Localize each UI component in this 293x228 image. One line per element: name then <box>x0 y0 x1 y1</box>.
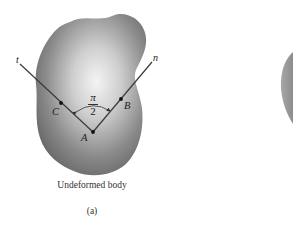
point-a-dot <box>91 130 95 134</box>
angle-numerator: π <box>87 92 99 103</box>
deformed-body-partial-shape <box>281 52 293 124</box>
point-c-dot <box>59 101 63 105</box>
point-c-label: C <box>52 107 59 118</box>
figure-caption: Undeformed body <box>57 180 126 190</box>
figure-sublabel: (a) <box>87 206 98 216</box>
n-axis-label: n <box>153 53 158 63</box>
point-a-label: A <box>81 133 87 144</box>
point-b-dot <box>119 97 123 101</box>
point-b-label: B <box>124 101 130 112</box>
angle-denominator: 2 <box>87 106 99 117</box>
t-axis-label: t <box>16 55 19 65</box>
diagram-canvas <box>0 0 293 228</box>
angle-label-pi-over-2: π 2 <box>87 92 99 117</box>
